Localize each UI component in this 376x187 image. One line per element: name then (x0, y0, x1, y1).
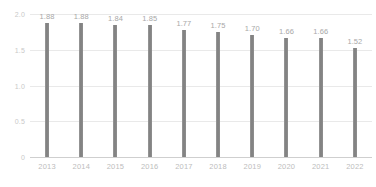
bar-slot: 1.88 (30, 14, 64, 157)
y-axis-tick-label: 0.5 (15, 118, 25, 125)
bar-slot: 1.88 (64, 14, 98, 157)
x-axis-tick-label: 2017 (175, 162, 193, 171)
x-axis-tick-label: 2021 (312, 162, 330, 171)
bar-value-label: 1.52 (347, 37, 362, 46)
bar-slot: 1.70 (235, 14, 269, 157)
bar-value-label: 1.75 (211, 21, 226, 30)
bar-slot: 1.66 (304, 14, 338, 157)
x-axis-tick-label: 2022 (346, 162, 364, 171)
bar-chart: 00.51.01.52.0 1.881.881.841.851.771.751.… (0, 0, 376, 187)
x-axis-tick-label: 2015 (107, 162, 125, 171)
plot-area: 00.51.01.52.0 1.881.881.841.851.771.751.… (30, 14, 372, 157)
y-axis-tick-label: 1.5 (15, 46, 25, 53)
bar[interactable] (182, 30, 186, 157)
x-axis-tick-label: 2016 (141, 162, 159, 171)
bar[interactable] (319, 38, 323, 157)
bar-value-label: 1.66 (279, 27, 294, 36)
bar-slot: 1.52 (338, 14, 372, 157)
bar[interactable] (216, 32, 220, 157)
x-axis-tick-label: 2020 (278, 162, 296, 171)
y-axis-tick-label: 2.0 (15, 11, 25, 18)
bar-value-label: 1.70 (245, 24, 260, 33)
bar-slot: 1.77 (167, 14, 201, 157)
bar-slot: 1.66 (269, 14, 303, 157)
bar[interactable] (148, 25, 152, 157)
bar-value-label: 1.66 (313, 27, 328, 36)
bar[interactable] (79, 23, 83, 157)
bar-value-label: 1.88 (40, 12, 55, 21)
x-axis-tick-label: 2019 (244, 162, 262, 171)
x-axis-tick-label: 2013 (38, 162, 56, 171)
bar-value-label: 1.85 (142, 14, 157, 23)
x-axis-tick-label: 2014 (73, 162, 91, 171)
y-axis-tick-label: 1.0 (15, 82, 25, 89)
bar[interactable] (113, 25, 117, 157)
bar[interactable] (250, 35, 254, 157)
y-axis-tick-label: 0 (21, 154, 25, 161)
bar-slot: 1.85 (133, 14, 167, 157)
bar-value-label: 1.88 (74, 12, 89, 21)
bar[interactable] (45, 23, 49, 157)
axis-baseline (30, 157, 372, 158)
bar-value-label: 1.77 (176, 19, 191, 28)
x-axis-tick-label: 2018 (209, 162, 227, 171)
bar[interactable] (284, 38, 288, 157)
bars-group: 1.881.881.841.851.771.751.701.661.661.52 (30, 14, 372, 157)
bar-slot: 1.75 (201, 14, 235, 157)
bar-value-label: 1.84 (108, 14, 123, 23)
bar-slot: 1.84 (98, 14, 132, 157)
bar[interactable] (353, 48, 357, 157)
